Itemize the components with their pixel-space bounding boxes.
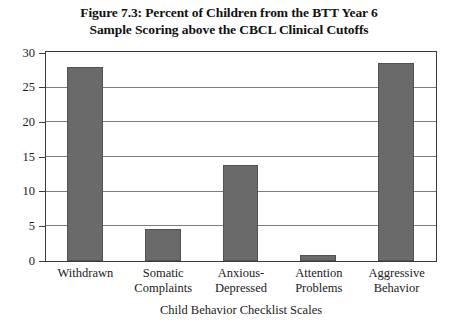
y-axis-tick	[39, 261, 45, 262]
y-axis-tick-label: 25	[0, 81, 35, 93]
x-axis-category-label: SomaticComplaints	[124, 266, 202, 296]
x-axis-category-label-line: Depressed	[202, 281, 280, 296]
y-axis-tick-label: 30	[0, 47, 35, 59]
y-axis-tick-label: 20	[0, 116, 35, 128]
y-axis-tick	[39, 157, 45, 158]
x-axis-title: Child Behavior Checklist Scales	[45, 303, 437, 318]
x-axis-category-label-line: Attention	[280, 266, 358, 281]
y-axis-tick	[39, 87, 45, 88]
figure-chart: Figure 7.3: Percent of Children from the…	[0, 0, 458, 330]
bar	[145, 229, 181, 261]
x-axis-category-label-line: Anxious-	[202, 266, 280, 281]
x-axis-category-label-line: Withdrawn	[47, 266, 125, 281]
y-axis-tick	[39, 122, 45, 123]
bar	[378, 63, 414, 261]
y-axis-tick-label: 15	[0, 151, 35, 163]
bar	[67, 67, 103, 261]
x-axis-category-label-line: Problems	[280, 281, 358, 296]
y-axis-tick	[39, 53, 45, 54]
y-axis-tick	[39, 226, 45, 227]
x-axis-category-label: AttentionProblems	[280, 266, 358, 296]
y-axis-tick-label: 10	[0, 185, 35, 197]
x-axis-category-label-line: Behavior	[358, 281, 436, 296]
x-axis-category-label-line: Aggressive	[358, 266, 436, 281]
y-axis-tick-label: 5	[0, 220, 35, 232]
plot-area	[45, 51, 437, 262]
y-axis-tick-label: 0	[0, 255, 35, 267]
chart-title-line-1: Figure 7.3: Percent of Children from the…	[18, 4, 440, 21]
bar	[223, 165, 259, 261]
plot-inner	[46, 52, 436, 261]
x-axis-category-label: Anxious-Depressed	[202, 266, 280, 296]
bar	[300, 255, 336, 261]
x-axis-category-label: Withdrawn	[47, 266, 125, 281]
chart-title-line-2: Sample Scoring above the CBCL Clinical C…	[18, 21, 440, 38]
x-axis-category-label-line: Somatic	[124, 266, 202, 281]
x-axis-category-label: AggressiveBehavior	[358, 266, 436, 296]
x-axis-category-label-line: Complaints	[124, 281, 202, 296]
y-axis-tick	[39, 191, 45, 192]
chart-title: Figure 7.3: Percent of Children from the…	[18, 4, 440, 38]
